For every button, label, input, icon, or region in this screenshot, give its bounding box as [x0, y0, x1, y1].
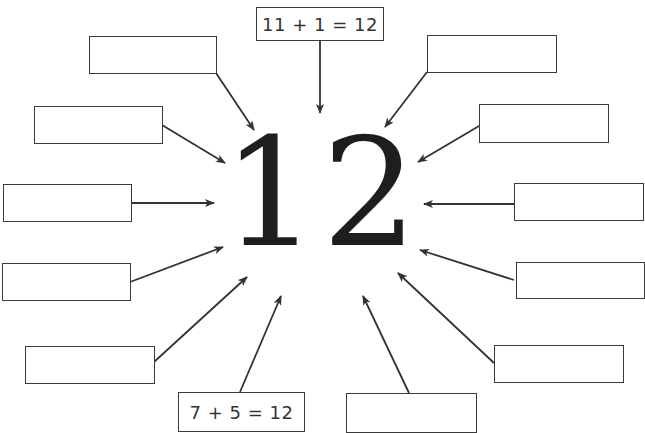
answer-box-right-2[interactable] — [479, 104, 609, 143]
answer-box-left-4[interactable] — [2, 263, 131, 301]
arrow-left-5 — [154, 277, 247, 362]
arrow-left-4 — [130, 247, 223, 282]
center-number: 12 — [232, 118, 412, 268]
arrow-right-5 — [398, 273, 494, 363]
box-label: 7 + 5 = 12 — [190, 402, 294, 423]
answer-box-right-4[interactable] — [516, 262, 645, 299]
arrow-bottom-right — [363, 296, 409, 393]
arrow-right-2 — [418, 126, 479, 162]
answer-box-bottom-left: 7 + 5 = 12 — [178, 392, 305, 432]
answer-box-left-2[interactable] — [34, 106, 163, 144]
arrow-right-4 — [420, 250, 514, 280]
arrow-bottom-left — [240, 296, 281, 392]
answer-box-left-1[interactable] — [89, 36, 217, 74]
answer-box-right-3[interactable] — [514, 183, 644, 221]
answer-box-left-3[interactable] — [3, 184, 132, 222]
arrow-left-2 — [162, 125, 225, 163]
answer-box-top: 11 + 1 = 12 — [256, 7, 384, 41]
box-label: 11 + 1 = 12 — [262, 14, 378, 35]
answer-box-left-5[interactable] — [25, 346, 155, 384]
answer-box-right-1[interactable] — [427, 35, 557, 73]
answer-box-bottom-right[interactable] — [346, 393, 477, 433]
answer-box-right-5[interactable] — [494, 345, 624, 383]
